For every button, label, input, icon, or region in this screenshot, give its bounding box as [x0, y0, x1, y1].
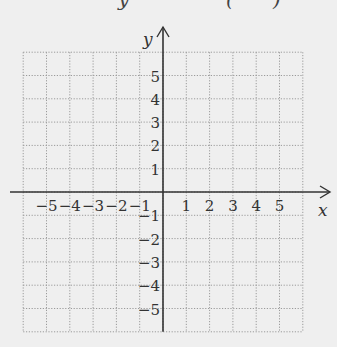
y-tick-labels: 54321−1−2−3−4−5 — [138, 68, 160, 319]
y-tick-label: −1 — [138, 207, 160, 225]
x-tick-label: −3 — [82, 197, 104, 215]
x-tick-label: 1 — [182, 197, 192, 215]
y-tick-label: −5 — [138, 301, 160, 319]
x-tick-label: 3 — [228, 197, 238, 215]
x-tick-label: 4 — [251, 197, 261, 215]
y-tick-label: 4 — [150, 91, 160, 109]
x-tick-label: 2 — [205, 197, 215, 215]
y-tick-label: −3 — [138, 254, 160, 272]
y-tick-label: 3 — [150, 114, 160, 132]
x-tick-label: 5 — [275, 197, 285, 215]
x-axis-label: x — [318, 200, 328, 220]
x-tick-label: −5 — [35, 197, 57, 215]
x-tick-label: −2 — [105, 197, 127, 215]
coordinate-plane: −5−4−3−2−112345 54321−1−2−3−4−5 x y — [0, 0, 337, 347]
x-tick-label: −4 — [59, 197, 81, 215]
y-tick-label: −4 — [138, 277, 160, 295]
y-tick-label: 5 — [150, 68, 160, 86]
y-tick-label: −2 — [138, 231, 160, 249]
y-tick-label: 2 — [150, 137, 160, 155]
axes — [10, 27, 330, 332]
y-tick-label: 1 — [150, 161, 160, 179]
y-axis-label: y — [142, 29, 153, 49]
